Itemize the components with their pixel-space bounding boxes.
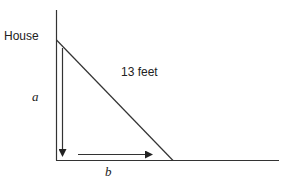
house-label: House <box>4 29 39 43</box>
side-b-label: b <box>105 164 112 180</box>
ladder-hypotenuse <box>57 40 174 161</box>
ladder-diagram <box>0 0 284 183</box>
side-a-label: a <box>32 89 39 105</box>
hypotenuse-label: 13 feet <box>121 65 158 79</box>
